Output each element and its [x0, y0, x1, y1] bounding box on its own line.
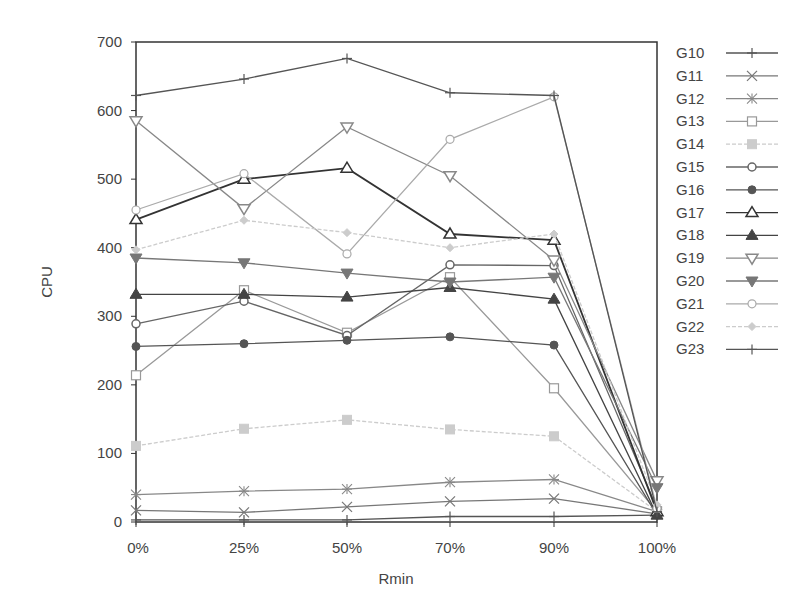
series-g16: [132, 333, 661, 519]
series-g15: [132, 261, 661, 512]
x-tick-label: 0%: [127, 539, 149, 556]
y-tick-label: 0: [114, 513, 122, 530]
y-tick-label: 300: [97, 307, 122, 324]
y-tick-label: 400: [97, 239, 122, 256]
legend-item-g12: G12: [676, 90, 778, 107]
legend-item-g15: G15: [676, 158, 778, 175]
legend-label: G22: [676, 318, 704, 335]
legend-label: G11: [676, 67, 703, 84]
legend-label: G15: [676, 158, 704, 175]
legend-item-g20: G20: [676, 272, 778, 289]
y-tick-label: 200: [97, 376, 122, 393]
y-tick-label: 100: [97, 444, 122, 461]
legend-item-g13: G13: [676, 112, 778, 129]
legend: G10G11G12G13G14G15G16G17G18G19G20G21G22G…: [676, 44, 778, 357]
legend-item-g14: G14: [676, 135, 778, 152]
y-axis-title: CPU: [38, 266, 55, 298]
legend-item-g18: G18: [676, 226, 778, 243]
series-g11: [131, 494, 662, 519]
legend-label: G10: [676, 44, 704, 61]
x-tick-label: 70%: [435, 539, 465, 556]
x-axis: 0%25%50%70%90%100%: [127, 522, 676, 556]
series-g21: [132, 93, 661, 512]
x-tick-label: 25%: [229, 539, 259, 556]
series-g23: [131, 53, 662, 516]
legend-item-g19: G19: [676, 249, 778, 266]
series-g12: [131, 474, 662, 516]
legend-item-g17: G17: [676, 204, 778, 221]
legend-item-g16: G16: [676, 181, 778, 198]
x-axis-title: Rmin: [378, 570, 413, 587]
y-tick-label: 500: [97, 170, 122, 187]
line-chart: 0100200300400500600700 0%25%50%70%90%100…: [0, 0, 810, 613]
legend-label: G17: [676, 204, 704, 221]
x-tick-label: 90%: [539, 539, 569, 556]
y-axis: 0100200300400500600700: [97, 33, 136, 530]
legend-label: G20: [676, 272, 704, 289]
y-tick-label: 600: [97, 102, 122, 119]
legend-label: G12: [676, 90, 704, 107]
legend-label: G23: [676, 340, 704, 357]
legend-item-g23: G23: [676, 340, 778, 357]
legend-item-g22: G22: [676, 318, 778, 335]
legend-label: G19: [676, 249, 704, 266]
series-layer: [130, 53, 663, 524]
x-tick-label: 50%: [332, 539, 362, 556]
legend-label: G18: [676, 226, 704, 243]
legend-label: G21: [676, 295, 704, 312]
plot-frame: [136, 42, 657, 522]
legend-item-g10: G10: [676, 44, 778, 61]
y-tick-label: 700: [97, 33, 122, 50]
series-g14: [132, 415, 662, 516]
series-g22: [132, 216, 661, 509]
legend-item-g11: G11: [676, 67, 778, 84]
legend-label: G13: [676, 112, 704, 129]
legend-label: G16: [676, 181, 704, 198]
legend-item-g21: G21: [676, 295, 778, 312]
legend-label: G14: [676, 135, 704, 152]
x-tick-label: 100%: [638, 539, 676, 556]
